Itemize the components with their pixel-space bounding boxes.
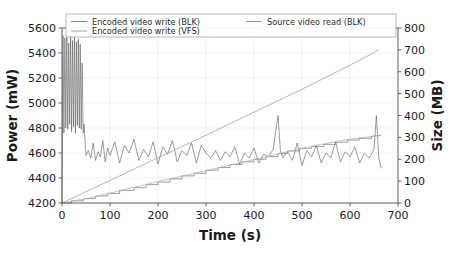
series-2	[62, 50, 379, 203]
legend-label: Encoded video write (BLK)	[92, 17, 200, 27]
x-tick-label: 700	[388, 209, 409, 222]
y-left-tick-label: 4200	[28, 197, 56, 210]
y-right-tick-label: 200	[404, 153, 425, 166]
y-right-tick-label: 300	[404, 131, 425, 144]
x-tick-label: 200	[148, 209, 169, 222]
plot-frame	[62, 28, 398, 203]
x-tick-label: 500	[292, 209, 313, 222]
y-axis-right-label: Size (MB)	[429, 79, 445, 151]
y-right-tick-label: 100	[404, 175, 425, 188]
y-left-tick-label: 4600	[28, 147, 56, 160]
x-tick-label: 0	[59, 209, 66, 222]
y-right-tick-label: 800	[404, 22, 425, 35]
y-right-tick-label: 400	[404, 110, 425, 123]
legend-label: Encoded video write (VFS)	[92, 26, 200, 36]
x-tick-label: 600	[340, 209, 361, 222]
y-right-tick-label: 700	[404, 44, 425, 57]
y-right-tick-label: 600	[404, 66, 425, 79]
series-4	[62, 136, 379, 203]
chart-figure: 0100200300400500600700420044004600480050…	[0, 0, 453, 256]
y-left-tick-label: 4800	[28, 122, 56, 135]
power-and-size-line-chart: 0100200300400500600700420044004600480050…	[0, 0, 453, 256]
x-tick-label: 300	[196, 209, 217, 222]
y-axis-left-label: Power (mW)	[4, 69, 20, 162]
y-left-tick-label: 5000	[28, 97, 56, 110]
y-left-tick-label: 5600	[28, 22, 56, 35]
y-left-tick-label: 5400	[28, 47, 56, 60]
x-tick-label: 100	[100, 209, 121, 222]
x-axis-label: Time (s)	[199, 227, 261, 243]
legend-label: Source video read (BLK)	[267, 17, 366, 27]
y-right-tick-label: 500	[404, 88, 425, 101]
x-tick-label: 400	[244, 209, 265, 222]
y-left-tick-label: 5200	[28, 72, 56, 85]
y-left-tick-label: 4400	[28, 172, 56, 185]
y-right-tick-label: 0	[404, 197, 411, 210]
